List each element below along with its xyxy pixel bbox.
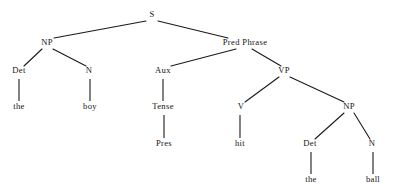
tree-terminal-labels: the boy Pres hit the ball <box>13 101 380 184</box>
node-det-object: Det <box>303 138 317 148</box>
tree-stems <box>19 79 373 174</box>
tree-canvas: S NP Pred Phrase Det N Aux VP Tense V NP… <box>0 0 394 195</box>
node-tense: Tense <box>152 101 174 111</box>
node-vp: VP <box>278 65 290 75</box>
syntax-tree-diagram: S NP Pred Phrase Det N Aux VP Tense V NP… <box>0 0 394 195</box>
terminal-boy: boy <box>83 101 97 111</box>
tree-edges <box>24 21 370 139</box>
edge-pred-phrase-to-vp <box>252 49 281 66</box>
terminal-pres: Pres <box>156 138 172 148</box>
node-np-object: NP <box>343 101 355 111</box>
node-n-object: N <box>369 138 376 148</box>
edge-vp-to-np-object <box>290 77 344 102</box>
edge-pred-phrase-to-aux <box>171 49 236 66</box>
node-pred-phrase: Pred Phrase <box>223 37 268 47</box>
edge-np-subject-to-det <box>24 49 42 66</box>
edge-s-to-np-subject <box>54 21 146 38</box>
node-det-subject: Det <box>12 65 26 75</box>
edge-np-object-to-n <box>354 113 370 139</box>
node-aux: Aux <box>155 65 171 75</box>
node-np-subject: NP <box>41 37 53 47</box>
node-v: V <box>238 101 245 111</box>
edge-np-object-to-det <box>315 113 344 139</box>
edge-s-to-pred-phrase <box>158 21 228 38</box>
terminal-ball: ball <box>366 174 380 184</box>
node-s: S <box>149 9 154 19</box>
terminal-the-object: the <box>305 174 316 184</box>
edge-vp-to-v <box>245 77 279 102</box>
terminal-the-subject: the <box>13 101 24 111</box>
node-n-subject: N <box>86 65 93 75</box>
terminal-hit: hit <box>235 138 245 148</box>
edge-np-subject-to-n <box>53 49 86 66</box>
